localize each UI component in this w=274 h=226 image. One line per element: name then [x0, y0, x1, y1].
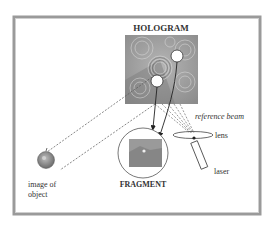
- hologram-label: HOLOGRAM: [133, 23, 189, 33]
- reference-beam-label: reference beam: [195, 112, 244, 121]
- image-of-object-label-line2: object: [28, 190, 48, 199]
- object-image: [38, 148, 55, 169]
- reference-beam-rays: [155, 104, 194, 133]
- hologram-spot-2: [151, 75, 163, 87]
- hologram-plate: [125, 35, 198, 104]
- image-of-object-label-line1: image of: [28, 180, 57, 189]
- focal-point: [192, 136, 195, 139]
- lens-label: lens: [215, 131, 228, 140]
- fragment: [118, 128, 168, 178]
- hologram-diagram: HOLOGRAM: [0, 0, 274, 226]
- hologram-spot-1: [171, 50, 183, 62]
- laser-device: [191, 141, 208, 170]
- laser-label: laser: [214, 167, 229, 176]
- fragment-label: FRAGMENT: [120, 180, 167, 189]
